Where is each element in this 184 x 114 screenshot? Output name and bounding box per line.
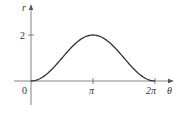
y-axis-label: r [22, 2, 26, 13]
y-tick-label-2: 2 [20, 30, 25, 41]
curve-line [31, 35, 155, 81]
x-axis-label: θ [167, 85, 172, 96]
x-axis-arrow-icon [168, 79, 174, 83]
y-axis-arrow-icon [29, 4, 33, 10]
x-tick-label-pi: π [89, 85, 95, 96]
polar-graph: r 2 0 π 2π θ [0, 0, 184, 114]
x-tick-label-2pi: 2π [146, 85, 157, 96]
origin-label: 0 [22, 85, 27, 96]
